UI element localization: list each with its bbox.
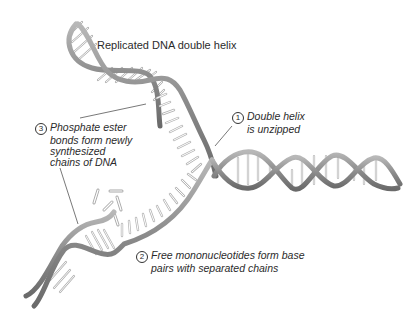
fork-upper-bases bbox=[157, 94, 201, 172]
step-1-line-2: is unzipped bbox=[232, 124, 305, 135]
leader-line-step-3-upper bbox=[80, 104, 146, 118]
step-1-number: 1 bbox=[232, 112, 244, 124]
step-2-number: 2 bbox=[136, 251, 148, 263]
step-1-line-1: Double helix bbox=[247, 110, 305, 122]
step-2-annotation: 2Free mononucleotides form base pairs wi… bbox=[136, 250, 305, 274]
step-3-line-1: Phosphate ester bbox=[50, 121, 126, 133]
step-3-line-4: chains of DNA bbox=[35, 157, 132, 168]
replicated-helix-label: Replicated DNA double helix bbox=[97, 40, 236, 51]
step-3-annotation: 3Phosphate ester bonds form newly synthe… bbox=[35, 122, 132, 168]
step-3-number: 3 bbox=[35, 123, 47, 135]
leader-line-step-3-lower bbox=[60, 168, 78, 224]
step-2-line-1: Free mononucleotides form base bbox=[151, 249, 305, 261]
step-1-annotation: 1Double helix is unzipped bbox=[232, 111, 305, 135]
step-2-line-2: pairs with separated chains bbox=[136, 263, 305, 274]
leader-line-step-1 bbox=[215, 126, 232, 146]
